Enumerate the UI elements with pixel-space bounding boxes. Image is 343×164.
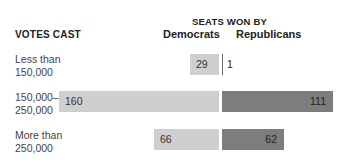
seats-won-by-header: SEATS WON BY [192,16,267,27]
row-label-150k-250k: 150,000– 250,000 [15,91,65,117]
row-label-line2: 250,000 [15,104,65,117]
row-label-line1: 150,000– [15,91,65,104]
row-label-line2: 250,000 [15,142,65,155]
row-label-line1: Less than [15,53,65,66]
republicans-header: Republicans [236,28,301,40]
row-label-more-than-250k: More than 250,000 [15,129,65,155]
democrats-header: Democrats [163,28,220,40]
bar-dem-150k-250k: 160 [59,91,219,112]
row-label-line1: More than [15,129,65,142]
bar-rep-less-than-150k: 1 [222,54,242,75]
row-label-line2: 150,000 [15,66,65,79]
bar-dem-more-than-250k: 66 [154,129,219,150]
bar-rep-more-than-250k: 62 [222,129,284,150]
bar-rep-150k-250k: 111 [222,91,333,112]
bar-dem-less-than-150k: 29 [190,54,219,75]
votes-cast-header: VOTES CAST [15,29,81,40]
row-label-less-than-150k: Less than 150,000 [15,53,65,79]
